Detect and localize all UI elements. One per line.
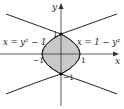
x-axis-label: x [115, 56, 120, 66]
y-axis-arrow-icon [59, 3, 64, 9]
tick-label-y-neg: −1 [63, 73, 74, 82]
y-axis-label: y [51, 2, 58, 12]
tick-label-x-neg: −1 [33, 56, 44, 65]
left-parabola-equation: x = y² − 1 [3, 37, 46, 47]
tick-label-x-pos: 1 [81, 56, 86, 65]
intersection-point-top [59, 32, 62, 35]
right-parabola-equation: x = 1 − y² [77, 37, 121, 47]
tick-label-y-pos: 1 [53, 30, 58, 39]
region-between-parabolas-diagram: y x x = y² − 1 x = 1 − y² 1 −1 −1 1 [0, 0, 124, 109]
